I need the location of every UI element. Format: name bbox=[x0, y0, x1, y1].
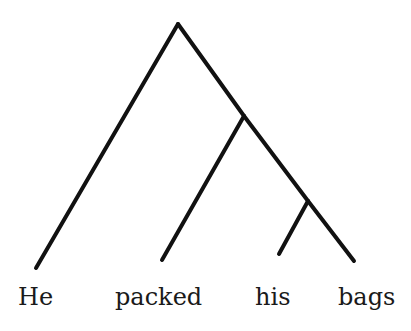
branch-root-to-vp bbox=[178, 24, 244, 116]
branch-vp-to-packed bbox=[162, 116, 244, 260]
branch-np-to-his bbox=[279, 201, 308, 254]
word-packed: packed bbox=[115, 283, 202, 311]
word-he: He bbox=[18, 283, 53, 311]
word-his: his bbox=[255, 283, 290, 311]
tree-diagram bbox=[0, 0, 411, 331]
branch-root-to-he bbox=[36, 24, 178, 268]
word-bags: bags bbox=[338, 283, 395, 311]
branch-vp-to-np bbox=[244, 116, 308, 201]
branch-np-to-bags bbox=[308, 201, 354, 261]
